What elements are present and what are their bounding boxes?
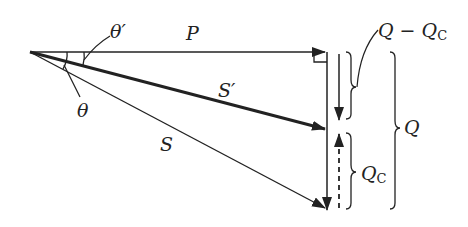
theta-label: θ [77, 99, 89, 121]
right-angle-marker [314, 52, 327, 62]
theta-prime-label: θ′ [110, 20, 126, 42]
s-prime-vector [30, 52, 325, 129]
s-label: S [160, 133, 173, 155]
qc-label: QC [361, 162, 387, 186]
theta-prime-leader [84, 36, 110, 60]
power-triangle-diagram: θ′ P S′ θ S Q − QC QC Q [0, 0, 468, 227]
theta-prime-arc [83, 52, 84, 65]
s-vector [30, 52, 325, 208]
q-minus-qc-brace [346, 52, 356, 119]
s-prime-label: S′ [218, 79, 236, 101]
q-minus-qc-leader [357, 30, 378, 87]
theta-leader [64, 65, 80, 97]
q-minus-qc-label: Q − QC [378, 19, 447, 43]
p-label: P [185, 22, 200, 44]
q-label: Q [404, 116, 420, 138]
qc-brace [346, 133, 356, 209]
q-brace [390, 52, 400, 209]
